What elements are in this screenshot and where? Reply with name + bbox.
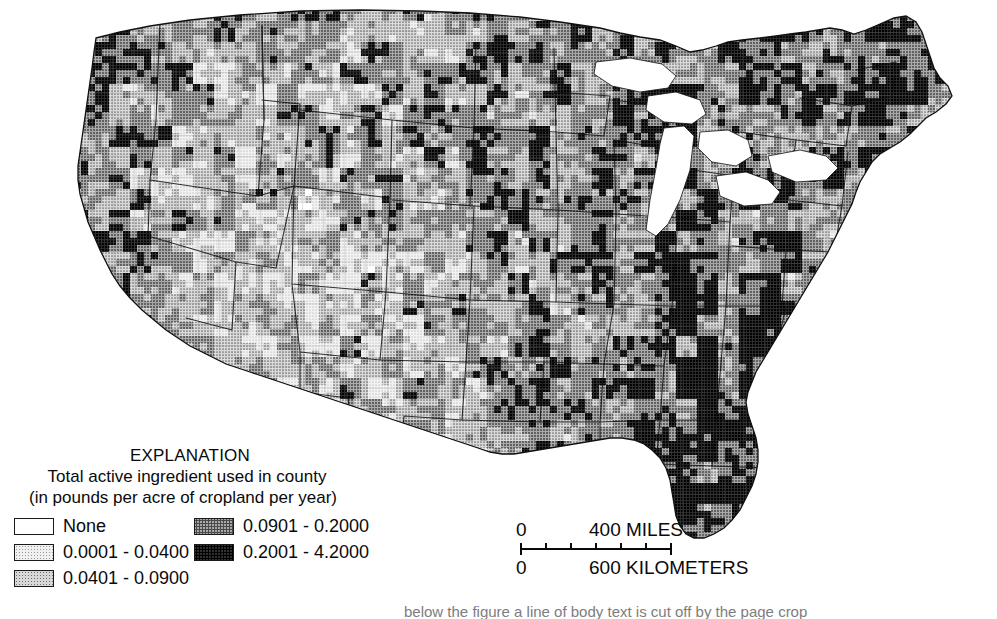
county-cell: [487, 301, 495, 309]
county-cell: [438, 112, 446, 120]
county-cell: [683, 252, 691, 260]
county-cell: [599, 287, 607, 295]
county-cell: [669, 427, 677, 435]
county-cell: [172, 147, 180, 155]
county-cell: [536, 63, 544, 71]
county-cell: [627, 231, 635, 239]
county-cell: [242, 189, 250, 197]
county-cell: [256, 308, 264, 316]
county-cell: [235, 21, 243, 29]
county-cell: [487, 168, 495, 176]
county-cell: [417, 84, 425, 92]
county-cell: [116, 175, 124, 183]
county-cell: [361, 147, 369, 155]
county-cell: [144, 273, 152, 281]
county-cell: [634, 294, 642, 302]
county-cell: [459, 378, 467, 386]
county-cell: [298, 168, 306, 176]
county-cell: [711, 259, 719, 267]
county-cell: [459, 427, 467, 435]
county-cell: [200, 210, 208, 218]
county-cell: [410, 343, 418, 351]
legend-item-none[interactable]: None: [14, 513, 189, 539]
county-cell: [536, 399, 544, 407]
county-cell: [515, 336, 523, 344]
county-cell: [725, 315, 733, 323]
county-cell: [606, 378, 614, 386]
county-cell: [522, 49, 530, 57]
county-cell: [683, 203, 691, 211]
county-cell: [788, 231, 796, 239]
county-cell: [494, 98, 502, 106]
county-cell: [641, 329, 649, 337]
county-cell: [438, 175, 446, 183]
county-cell: [382, 70, 390, 78]
county-cell: [270, 364, 278, 372]
legend-item-class-3[interactable]: 0.0901 - 0.2000: [194, 513, 369, 539]
county-cell: [452, 35, 460, 43]
county-cell: [172, 266, 180, 274]
county-cell: [242, 280, 250, 288]
county-cell: [613, 35, 621, 43]
county-cell: [249, 322, 257, 330]
county-cell: [200, 28, 208, 36]
county-cell: [774, 140, 782, 148]
county-cell: [788, 217, 796, 225]
county-cell: [249, 301, 257, 309]
county-cell: [683, 224, 691, 232]
county-cell: [564, 224, 572, 232]
county-cell: [347, 245, 355, 253]
county-cell: [326, 259, 334, 267]
county-cell: [774, 280, 782, 288]
county-cell: [361, 371, 369, 379]
county-cell: [347, 357, 355, 365]
county-cell: [557, 315, 565, 323]
county-cell: [697, 182, 705, 190]
county-cell: [634, 287, 642, 295]
county-cell: [186, 273, 194, 281]
county-cell: [564, 161, 572, 169]
county-cell: [802, 189, 810, 197]
county-cell: [284, 175, 292, 183]
county-cell: [578, 42, 586, 50]
county-cell: [193, 28, 201, 36]
county-cell: [599, 329, 607, 337]
county-cell: [522, 210, 530, 218]
county-cell: [81, 168, 89, 176]
county-cell: [263, 329, 271, 337]
county-cell: [718, 504, 726, 512]
county-cell: [193, 140, 201, 148]
county-cell: [557, 413, 565, 421]
county-cell: [445, 343, 453, 351]
county-cell: [487, 315, 495, 323]
county-cell: [515, 70, 523, 78]
county-cell: [459, 252, 467, 260]
county-cell: [312, 266, 320, 274]
county-cell: [116, 273, 124, 281]
county-cell: [347, 280, 355, 288]
legend-item-class-2[interactable]: 0.0401 - 0.0900: [14, 565, 189, 591]
county-cell: [137, 140, 145, 148]
county-cell: [361, 28, 369, 36]
county-cell: [396, 28, 404, 36]
county-cell: [102, 203, 110, 211]
county-cell: [249, 224, 257, 232]
legend-item-class-4[interactable]: 0.2001 - 4.2000: [194, 539, 369, 565]
legend-item-class-1[interactable]: 0.0001 - 0.0400: [14, 539, 189, 565]
county-cell: [564, 315, 572, 323]
county-cell: [214, 350, 222, 358]
county-cell: [375, 322, 383, 330]
county-cell: [389, 266, 397, 274]
county-cell: [774, 42, 782, 50]
county-cell: [354, 329, 362, 337]
county-cell: [137, 238, 145, 246]
county-cell: [515, 413, 523, 421]
county-cell: [277, 329, 285, 337]
county-cell: [410, 175, 418, 183]
county-cell: [165, 112, 173, 120]
county-cell: [172, 315, 180, 323]
county-cell: [123, 70, 131, 78]
county-cell: [137, 203, 145, 211]
county-cell: [375, 385, 383, 393]
county-cell: [438, 98, 446, 106]
